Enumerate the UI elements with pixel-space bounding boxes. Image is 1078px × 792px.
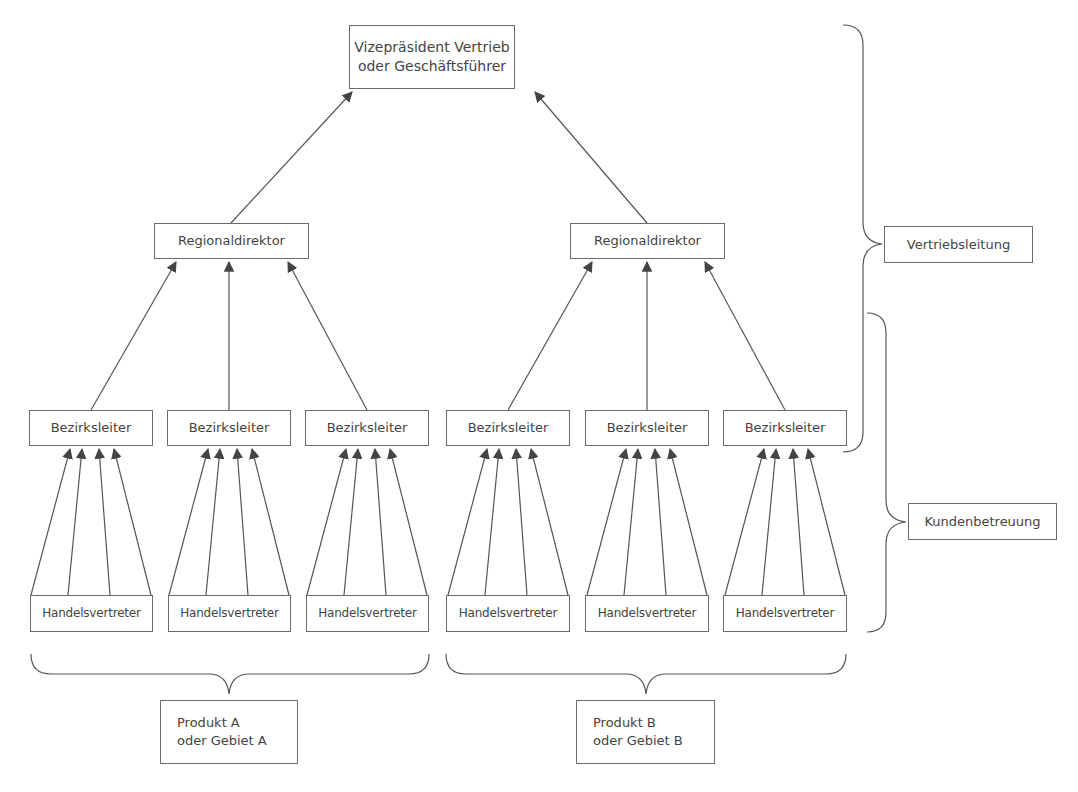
node-district-manager-6: Bezirksleiter <box>723 410 847 446</box>
node-district-manager-4: Bezirksleiter <box>446 410 570 446</box>
label-product-b: Produkt B oder Gebiet B <box>576 700 715 764</box>
node-vp-sales: Vizepräsident Vertrieb oder Geschäftsfüh… <box>349 25 515 89</box>
brace-kundenbetreuung <box>867 313 906 632</box>
arrow-regional-right-to-top <box>535 92 647 223</box>
brace-group-a <box>31 654 429 694</box>
node-sales-rep-1: Handelsvertreter <box>30 595 153 632</box>
node-district-manager-2: Bezirksleiter <box>167 410 291 446</box>
brace-group-b <box>446 654 846 694</box>
node-district-manager-3: Bezirksleiter <box>305 410 429 446</box>
node-sales-rep-2: Handelsvertreter <box>168 595 291 632</box>
node-sales-rep-6: Handelsvertreter <box>723 595 847 632</box>
label-kundenbetreuung: Kundenbetreuung <box>908 503 1057 540</box>
node-sales-rep-5: Handelsvertreter <box>585 595 709 632</box>
label-product-a: Produkt A oder Gebiet A <box>160 700 298 764</box>
label-vertriebsleitung: Vertriebsleitung <box>884 226 1033 263</box>
node-district-manager-5: Bezirksleiter <box>585 410 709 446</box>
brace-vertriebsleitung <box>843 25 882 452</box>
node-regional-director-1: Regionaldirektor <box>154 223 309 259</box>
node-sales-rep-4: Handelsvertreter <box>446 595 570 632</box>
rep-arrows <box>31 449 845 595</box>
connector-layer <box>0 0 1078 792</box>
node-district-manager-1: Bezirksleiter <box>29 410 153 446</box>
node-sales-rep-3: Handelsvertreter <box>306 595 429 632</box>
arrow-regional-left-to-top <box>231 92 352 223</box>
node-regional-director-2: Regionaldirektor <box>570 223 725 259</box>
